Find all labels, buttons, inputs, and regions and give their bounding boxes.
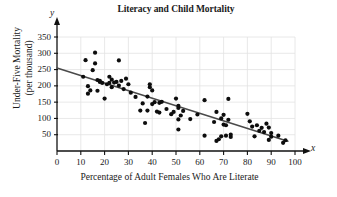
y-tick-label: 300 bbox=[29, 49, 51, 58]
data-point bbox=[255, 123, 259, 127]
data-point bbox=[276, 134, 280, 138]
data-point bbox=[226, 97, 230, 101]
data-point bbox=[145, 109, 149, 113]
x-tick-label: 10 bbox=[70, 158, 92, 167]
data-point bbox=[260, 126, 264, 130]
x-tick-label: 60 bbox=[189, 158, 211, 167]
data-point bbox=[224, 123, 228, 127]
x-tick-label: 20 bbox=[94, 158, 116, 167]
y-axis-arrowhead bbox=[54, 17, 60, 25]
data-point bbox=[81, 75, 85, 79]
data-point bbox=[176, 127, 180, 131]
data-point bbox=[129, 91, 133, 95]
data-point bbox=[91, 68, 95, 72]
regression-line bbox=[57, 68, 288, 141]
data-point bbox=[138, 109, 142, 113]
data-point bbox=[176, 104, 180, 108]
x-axis-arrowhead bbox=[303, 148, 311, 154]
data-point bbox=[93, 51, 97, 55]
y-tick-label: 150 bbox=[29, 98, 51, 107]
data-point bbox=[283, 138, 287, 142]
y-tick-label: 350 bbox=[29, 33, 51, 42]
data-point bbox=[157, 110, 161, 114]
data-point bbox=[212, 120, 216, 124]
data-point bbox=[164, 107, 168, 111]
data-point bbox=[143, 121, 147, 125]
data-point bbox=[145, 95, 149, 99]
data-point bbox=[188, 117, 192, 121]
trendline bbox=[57, 68, 288, 141]
data-point bbox=[83, 58, 87, 62]
data-point bbox=[214, 110, 218, 114]
data-point bbox=[179, 113, 183, 117]
x-tick-label: 40 bbox=[141, 158, 163, 167]
data-point bbox=[202, 98, 206, 102]
data-point bbox=[114, 80, 118, 84]
data-point bbox=[100, 81, 104, 85]
data-point bbox=[176, 117, 180, 121]
data-point bbox=[226, 118, 230, 122]
data-point bbox=[103, 96, 107, 100]
data-point bbox=[267, 125, 271, 129]
data-point bbox=[124, 77, 128, 81]
data-point bbox=[86, 84, 90, 88]
data-point bbox=[219, 116, 223, 120]
data-point bbox=[110, 85, 114, 89]
x-tick-label: 50 bbox=[165, 158, 187, 167]
data-point bbox=[88, 88, 92, 92]
y-tick-label: 100 bbox=[29, 114, 51, 123]
data-point bbox=[250, 124, 254, 128]
data-point bbox=[269, 131, 273, 135]
axis-tick-marks bbox=[54, 37, 295, 155]
data-point bbox=[264, 122, 268, 126]
y-tick-label: 250 bbox=[29, 65, 51, 74]
x-tick-label: 0 bbox=[46, 158, 68, 167]
data-point bbox=[181, 109, 185, 113]
data-point bbox=[95, 89, 99, 93]
x-tick-label: 100 bbox=[284, 158, 306, 167]
data-point bbox=[117, 83, 121, 87]
data-point bbox=[152, 100, 156, 104]
data-point bbox=[229, 133, 233, 137]
data-point bbox=[195, 112, 199, 116]
data-point bbox=[248, 119, 252, 123]
data-point bbox=[262, 130, 266, 134]
data-point bbox=[252, 134, 256, 138]
data-point bbox=[117, 58, 121, 62]
x-tick-label: 80 bbox=[236, 158, 258, 167]
data-point bbox=[133, 95, 137, 99]
data-point bbox=[224, 134, 228, 138]
y-tick-label: 200 bbox=[29, 81, 51, 90]
data-point bbox=[119, 79, 123, 83]
chart-figure: Literacy and Child Mortality y x Under-F… bbox=[0, 0, 337, 197]
data-point bbox=[174, 96, 178, 100]
data-point bbox=[150, 88, 154, 92]
data-point bbox=[172, 110, 176, 114]
data-point bbox=[141, 101, 145, 105]
data-point bbox=[160, 100, 164, 104]
x-tick-label: 90 bbox=[260, 158, 282, 167]
data-point bbox=[219, 134, 223, 138]
data-point bbox=[222, 113, 226, 117]
data-point bbox=[93, 61, 97, 65]
x-tick-label: 70 bbox=[213, 158, 235, 167]
data-point bbox=[202, 134, 206, 138]
data-point bbox=[122, 87, 126, 91]
data-point bbox=[126, 82, 130, 86]
data-point bbox=[269, 135, 273, 139]
data-point bbox=[245, 112, 249, 116]
x-tick-label: 30 bbox=[117, 158, 139, 167]
y-tick-label: 50 bbox=[29, 130, 51, 139]
